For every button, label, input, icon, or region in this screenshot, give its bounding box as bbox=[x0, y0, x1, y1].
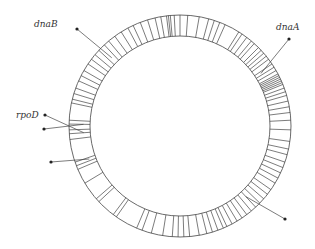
gene-tick bbox=[91, 59, 108, 72]
gene-tick bbox=[183, 216, 184, 237]
gene-tick bbox=[70, 137, 91, 140]
gene-tick bbox=[140, 22, 148, 42]
gene-tick bbox=[248, 185, 264, 199]
gene-tick bbox=[161, 17, 165, 38]
gene-tick bbox=[69, 129, 90, 130]
gene-tick bbox=[172, 216, 173, 237]
gene-tick bbox=[267, 149, 287, 154]
gene-tick bbox=[267, 95, 287, 101]
marker-dot-unlabeled-3 bbox=[283, 217, 286, 220]
gene-tick bbox=[128, 28, 138, 47]
gene-tick bbox=[148, 20, 154, 40]
gene-tick bbox=[269, 139, 290, 142]
gene-tick bbox=[241, 192, 255, 207]
gene-tick bbox=[203, 19, 208, 39]
gene-tick bbox=[238, 195, 251, 211]
leader-line-rpoD bbox=[45, 115, 84, 133]
gene-tick bbox=[206, 212, 212, 232]
marker-dot-dnaA bbox=[287, 37, 290, 40]
gene-tick bbox=[188, 216, 190, 237]
marker-dot-dnaB bbox=[75, 27, 78, 30]
gene-tick bbox=[269, 112, 290, 115]
leader-line-unlabeled-1 bbox=[44, 124, 84, 129]
gene-tick bbox=[79, 81, 98, 90]
chromosome-map: dnaB dnaA rpoD bbox=[0, 0, 315, 249]
gene-tick bbox=[174, 15, 175, 36]
gene-tick bbox=[76, 88, 96, 95]
gene-tick bbox=[163, 215, 166, 236]
leader-line-unlabeled-2 bbox=[51, 159, 89, 162]
gene-tick bbox=[95, 55, 111, 68]
gene-label-rpoD: rpoD bbox=[16, 110, 39, 120]
gene-tick bbox=[234, 198, 247, 215]
inner-circle bbox=[90, 36, 270, 216]
marker-unlabeled-3 bbox=[246, 197, 287, 221]
gene-markers: dnaB dnaA rpoD bbox=[16, 19, 300, 221]
marker-dnaA: dnaA bbox=[261, 22, 300, 73]
gene-tick bbox=[196, 215, 200, 236]
marker-dot-unlabeled-2 bbox=[49, 160, 52, 163]
gene-tick bbox=[208, 20, 214, 40]
gene-tick bbox=[260, 76, 279, 86]
gene-tick bbox=[265, 155, 285, 162]
gene-tick bbox=[74, 94, 94, 100]
gene-tick bbox=[88, 64, 105, 76]
gene-tick bbox=[186, 15, 187, 36]
gene-tick bbox=[133, 25, 142, 44]
gene-tick bbox=[230, 201, 242, 218]
gene-tick bbox=[268, 101, 288, 106]
gene-tick bbox=[69, 132, 90, 133]
gene-tick bbox=[251, 181, 268, 194]
gene-tick bbox=[155, 18, 160, 38]
gene-label-dnaB: dnaB bbox=[34, 19, 58, 29]
marker-rpoD: rpoD bbox=[16, 110, 84, 133]
marker-dot-unlabeled-1 bbox=[42, 127, 45, 130]
gene-tick bbox=[85, 172, 103, 183]
gene-tick bbox=[269, 107, 290, 111]
gene-tick bbox=[270, 120, 291, 121]
gene-tick bbox=[222, 205, 232, 224]
marker-dot-rpoD bbox=[43, 113, 46, 116]
gene-tick bbox=[226, 203, 237, 221]
gene-tick bbox=[78, 161, 97, 169]
gene-tick bbox=[266, 92, 286, 98]
gene-tick bbox=[245, 189, 260, 204]
leader-line-unlabeled-3 bbox=[246, 197, 285, 219]
gene-tick bbox=[268, 145, 289, 149]
gene-tick bbox=[170, 15, 172, 36]
leader-line-dnaB bbox=[77, 29, 112, 58]
gene-tick bbox=[196, 17, 200, 38]
gene-tick bbox=[259, 168, 278, 178]
gene-tick bbox=[69, 120, 90, 121]
gene-tick bbox=[84, 71, 102, 82]
gene-tick bbox=[270, 129, 291, 130]
gene-tick bbox=[218, 208, 227, 227]
gene-tick bbox=[81, 76, 100, 86]
gene-tick bbox=[202, 213, 207, 233]
gene-label-dnaA: dnaA bbox=[276, 22, 300, 32]
gene-tick bbox=[234, 37, 247, 54]
gene-tick bbox=[151, 213, 156, 233]
gene-tick bbox=[75, 155, 95, 162]
gene-tick bbox=[262, 81, 281, 90]
